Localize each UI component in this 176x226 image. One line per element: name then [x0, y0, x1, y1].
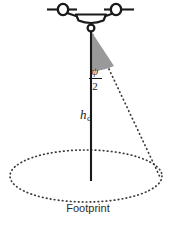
left-rotor-icon	[58, 4, 68, 15]
half-angle-wedge	[91, 31, 114, 71]
uav-footprint-figure: ψ 2 hd Footprint	[0, 0, 176, 226]
footprint-ellipse	[10, 150, 162, 202]
diagram-canvas	[0, 0, 176, 226]
right-rotor-icon	[111, 4, 121, 15]
quadcopter-icon	[47, 4, 134, 32]
drone-body	[76, 15, 106, 24]
camera-gimbal-icon	[88, 25, 95, 32]
